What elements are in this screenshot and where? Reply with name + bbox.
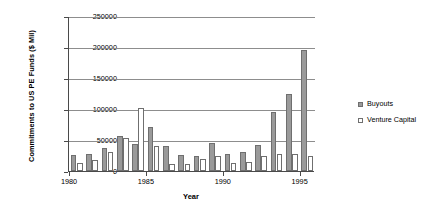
bar-venture-capital-1991 [246, 162, 252, 171]
x-axis-title: Year [68, 192, 314, 201]
bar-venture-capital-1985 [154, 146, 160, 171]
bar-buyouts-1993 [271, 112, 277, 171]
bar-group-1992 [255, 16, 267, 171]
bar-buyouts-1982 [102, 148, 108, 171]
x-axis-tick-mark [300, 172, 301, 176]
bar-buyouts-1984 [132, 144, 138, 171]
bar-group-1989 [209, 16, 221, 171]
bar-venture-capital-1988 [200, 159, 206, 171]
x-axis-tick-mark [69, 172, 70, 176]
bar-group-1994 [286, 16, 298, 171]
legend-item-buyouts: Buyouts [358, 100, 416, 108]
bar-buyouts-1995 [301, 50, 307, 171]
bar-group-1995 [301, 16, 313, 171]
bar-buyouts-1985 [148, 127, 154, 171]
bar-venture-capital-1983 [123, 138, 129, 171]
bar-chart: Commitments to US PE Funds ($ Mil) 05000… [0, 0, 435, 216]
x-axis-tick-label: 1995 [280, 177, 320, 186]
y-axis-tick-mark [64, 172, 68, 173]
bar-group-1991 [240, 16, 252, 171]
bar-group-1984 [132, 16, 144, 171]
legend-label: Buyouts [367, 100, 393, 108]
bar-venture-capital-1984 [138, 108, 144, 171]
bar-venture-capital-1980 [77, 163, 83, 171]
bar-venture-capital-1992 [261, 156, 267, 172]
bar-buyouts-1981 [86, 154, 92, 171]
bar-group-1987 [178, 16, 190, 171]
bar-group-1983 [117, 16, 129, 171]
y-axis-title: Commitments to US PE Funds ($ Mil) [27, 1, 43, 191]
bar-buyouts-1983 [117, 136, 123, 171]
x-axis-tick-mark [146, 172, 147, 176]
bar-venture-capital-1994 [292, 154, 298, 171]
bar-venture-capital-1981 [92, 160, 98, 171]
bar-buyouts-1987 [178, 155, 184, 171]
plot-area: 1980198519901995 [68, 17, 314, 172]
x-axis-tick-mark [223, 172, 224, 176]
legend-item-vc: Venture Capital [358, 116, 416, 124]
bar-buyouts-1990 [225, 154, 231, 171]
bar-group-1981 [86, 16, 98, 171]
bar-venture-capital-1986 [169, 164, 175, 171]
bar-group-1986 [163, 16, 175, 171]
chart-legend: BuyoutsVenture Capital [358, 100, 416, 132]
bar-group-1985 [148, 16, 160, 171]
bar-group-1993 [271, 16, 283, 171]
x-axis-tick-label: 1990 [203, 177, 243, 186]
x-axis-tick-label: 1980 [49, 177, 89, 186]
legend-label: Venture Capital [367, 116, 416, 124]
bar-buyouts-1991 [240, 152, 246, 171]
bar-group-1990 [225, 16, 237, 171]
bar-buyouts-1980 [71, 155, 77, 171]
bar-venture-capital-1993 [277, 154, 283, 171]
bar-group-1982 [102, 16, 114, 171]
legend-swatch-vc-icon [358, 118, 363, 123]
bar-buyouts-1989 [209, 143, 215, 171]
bar-venture-capital-1982 [108, 152, 114, 171]
x-axis-tick-label: 1985 [126, 177, 166, 186]
bar-venture-capital-1990 [231, 163, 237, 171]
bar-buyouts-1994 [286, 94, 292, 172]
bar-buyouts-1992 [255, 145, 261, 171]
bar-venture-capital-1995 [308, 156, 314, 172]
bar-buyouts-1986 [163, 146, 169, 171]
legend-swatch-buyouts-icon [358, 102, 363, 107]
bar-venture-capital-1989 [215, 156, 221, 171]
bar-group-1988 [194, 16, 206, 171]
bar-group-1980 [71, 16, 83, 171]
bar-buyouts-1988 [194, 156, 200, 172]
bar-venture-capital-1987 [185, 164, 191, 171]
